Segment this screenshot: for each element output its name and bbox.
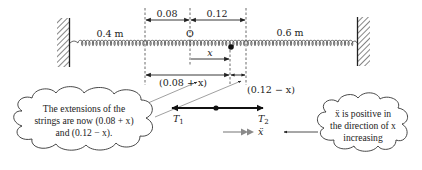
acceleration-arrow: [223, 129, 254, 136]
force-point: [213, 105, 218, 110]
label-0-12: 0.12: [206, 8, 227, 19]
left-wall: [57, 18, 70, 67]
spring-mass-diagram: 0.08 0.12 0.4 m 0.6 m O x (0.08 + x) (0.…: [0, 0, 422, 170]
callout-right-line-2: the direction of x: [330, 120, 396, 131]
label-0-08: 0.08: [156, 8, 177, 19]
label-0-08-plus-x: (0.08 + x): [159, 77, 207, 88]
callout-right-line-1: ẍ is positive in: [335, 108, 391, 119]
label-x: x: [207, 47, 213, 58]
right-wall: [358, 17, 371, 66]
callout-right-line-3: increasing: [343, 132, 383, 143]
label-t1: T1: [173, 113, 184, 126]
spring: [70, 40, 357, 45]
label-right-spring-length: 0.6 m: [276, 27, 303, 38]
callout-left-line-3: and (0.12 − x).: [56, 127, 113, 139]
label-0-12-minus-x: (0.12 − x): [247, 84, 295, 95]
callout-left-line-1: The extensions of the: [43, 103, 125, 114]
label-acceleration: ẍ: [258, 126, 264, 137]
mass-particle: [228, 44, 234, 50]
callout-left-line-2: strings are now (0.08 + x): [34, 115, 133, 127]
label-t2: T2: [258, 113, 269, 126]
label-equilibrium-O: O: [186, 28, 194, 39]
label-left-spring-length: 0.4 m: [96, 28, 123, 39]
